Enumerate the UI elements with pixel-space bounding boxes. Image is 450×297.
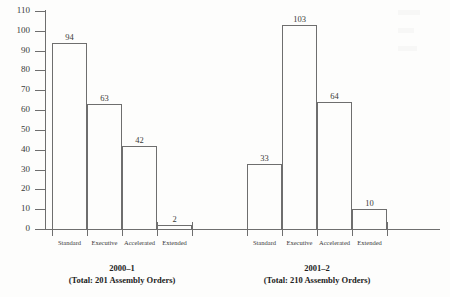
category-label-accelerated: Accelerated bbox=[124, 238, 155, 247]
plot-area: 0102030405060708090100110 94634223310364… bbox=[0, 0, 450, 297]
y-tick-80: 80 bbox=[35, 70, 45, 71]
y-tick-label-50: 50 bbox=[21, 123, 30, 136]
x-tick bbox=[157, 222, 158, 236]
x-tick bbox=[192, 222, 193, 236]
y-tick-0: 0 bbox=[35, 229, 45, 230]
category-label-extended: Extended bbox=[162, 238, 187, 247]
group-period-label: 2001–2 bbox=[264, 262, 371, 274]
group-period-label: 2000–1 bbox=[69, 262, 176, 274]
bar: 64 bbox=[317, 102, 352, 229]
bar: 33 bbox=[247, 164, 282, 229]
y-tick-100: 100 bbox=[35, 31, 45, 32]
category-label-accelerated: Accelerated bbox=[319, 238, 350, 247]
y-tick-10: 10 bbox=[35, 209, 45, 210]
x-axis-line bbox=[45, 229, 440, 230]
y-tick-label-20: 20 bbox=[21, 182, 30, 195]
x-tick bbox=[247, 222, 248, 236]
y-tick-label-60: 60 bbox=[21, 103, 30, 116]
category-label-standard: Standard bbox=[58, 238, 81, 247]
category-label-executive: Executive bbox=[92, 238, 118, 247]
category-label-executive: Executive bbox=[287, 238, 313, 247]
chart-figure: 0102030405060708090100110 94634223310364… bbox=[0, 0, 450, 297]
category-label-extended: Extended bbox=[357, 238, 382, 247]
bar-value-label: 2 bbox=[172, 214, 176, 224]
x-tick bbox=[122, 222, 123, 236]
y-tick-label-70: 70 bbox=[21, 83, 30, 96]
x-tick bbox=[282, 222, 283, 236]
bar: 103 bbox=[282, 25, 317, 229]
y-tick-label-30: 30 bbox=[21, 163, 30, 176]
y-tick-90: 90 bbox=[35, 51, 45, 52]
group-caption-2001-2: 2001–2(Total: 210 Assembly Orders) bbox=[264, 262, 371, 286]
x-tick bbox=[352, 222, 353, 236]
bar: 2 bbox=[157, 225, 192, 229]
bar: 10 bbox=[352, 209, 387, 229]
y-tick-label-90: 90 bbox=[21, 44, 30, 57]
x-tick bbox=[317, 222, 318, 236]
y-axis-line bbox=[45, 10, 46, 230]
category-label-standard: Standard bbox=[253, 238, 276, 247]
group-caption-2000-1: 2000–1(Total: 201 Assembly Orders) bbox=[69, 262, 176, 286]
y-tick-label-0: 0 bbox=[26, 222, 31, 235]
y-tick-label-110: 110 bbox=[17, 4, 30, 17]
bar-value-label: 42 bbox=[135, 135, 144, 145]
bar: 42 bbox=[122, 146, 157, 229]
bar: 63 bbox=[87, 104, 122, 229]
y-tick-label-40: 40 bbox=[21, 143, 30, 156]
y-tick-110: 110 bbox=[35, 11, 45, 12]
y-tick-label-80: 80 bbox=[21, 63, 30, 76]
x-tick bbox=[52, 222, 53, 236]
group-total-label: (Total: 201 Assembly Orders) bbox=[69, 274, 176, 286]
bar-value-label: 103 bbox=[293, 14, 306, 24]
x-tick bbox=[387, 222, 388, 236]
y-tick-50: 50 bbox=[35, 130, 45, 131]
x-tick bbox=[87, 222, 88, 236]
bar-value-label: 64 bbox=[330, 91, 339, 101]
bar-value-label: 63 bbox=[100, 93, 109, 103]
y-tick-20: 20 bbox=[35, 189, 45, 190]
bar-value-label: 33 bbox=[260, 153, 269, 163]
bar: 94 bbox=[52, 43, 87, 229]
group-total-label: (Total: 210 Assembly Orders) bbox=[264, 274, 371, 286]
y-tick-30: 30 bbox=[35, 170, 45, 171]
y-tick-label-10: 10 bbox=[21, 202, 30, 215]
bar-value-label: 94 bbox=[65, 32, 74, 42]
y-tick-70: 70 bbox=[35, 90, 45, 91]
y-tick-label-100: 100 bbox=[17, 24, 31, 37]
y-tick-60: 60 bbox=[35, 110, 45, 111]
y-tick-40: 40 bbox=[35, 150, 45, 151]
bar-value-label: 10 bbox=[365, 198, 374, 208]
